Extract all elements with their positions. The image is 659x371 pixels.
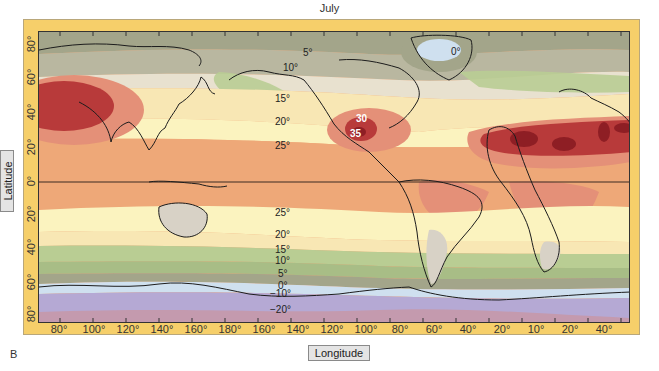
lon-tick-140w: 140°	[283, 323, 313, 335]
lat-tick-80s: 80°	[25, 301, 37, 327]
temperature-map	[38, 31, 630, 323]
lon-tick-80w: 80°	[385, 323, 415, 335]
lat-tick-40n: 40°	[25, 99, 37, 125]
isotherm-label: 5°	[278, 268, 288, 279]
isotherm-bands	[39, 32, 630, 323]
isotherm-label: 35	[350, 128, 361, 139]
lon-tick-100e: 100°	[79, 323, 109, 335]
isotherm-label: 0°	[451, 46, 461, 57]
lon-tick-60w: 60°	[419, 323, 449, 335]
lon-tick-80e: 80°	[44, 323, 74, 335]
lat-tick-60n: 60°	[25, 64, 37, 90]
lon-tick-120e: 120°	[113, 323, 143, 335]
isotherm-label: 15°	[275, 93, 290, 104]
isotherm-label: 5°	[303, 47, 313, 58]
lon-tick-40w: 40°	[453, 323, 483, 335]
panel-label: B	[10, 348, 17, 360]
isotherm-label: 10°	[283, 62, 298, 73]
isotherm-label: 10°	[275, 255, 290, 266]
isotherm-label: 20°	[275, 229, 290, 240]
lon-tick-40e: 40°	[589, 323, 619, 335]
lat-tick-80n: 80°	[25, 31, 37, 57]
map-title: July	[0, 2, 659, 14]
isotherm-label: −10°	[270, 288, 291, 299]
lat-tick-20s: 20°	[25, 201, 37, 227]
lat-tick-40s: 40°	[25, 234, 37, 260]
isotherm-label: 30	[356, 113, 367, 124]
lon-tick-180: 180°	[215, 323, 245, 335]
isotherm-label: 15°	[275, 244, 290, 255]
lat-tick-20n: 20°	[25, 134, 37, 160]
lat-tick-60s: 60°	[25, 269, 37, 295]
lon-tick-100w: 100°	[351, 323, 381, 335]
latitude-label-text: Latitude	[2, 156, 14, 206]
lon-tick-160e: 160°	[181, 323, 211, 335]
isotherm-label: 25°	[275, 140, 290, 151]
lon-tick-120w: 120°	[317, 323, 347, 335]
lon-tick-10e: 10°	[521, 323, 551, 335]
latitude-axis-label: Latitude	[0, 150, 14, 212]
isotherm-label: 25°	[275, 207, 290, 218]
isotherm-label: 20°	[275, 116, 290, 127]
longitude-axis-label: Longitude	[308, 345, 370, 361]
lon-tick-20e: 20°	[555, 323, 585, 335]
lon-tick-20w: 20°	[487, 323, 517, 335]
lon-tick-140e: 140°	[147, 323, 177, 335]
lat-tick-0: 0°	[25, 168, 37, 194]
isotherm-label: −20°	[270, 304, 291, 315]
lon-tick-160w: 160°	[249, 323, 279, 335]
